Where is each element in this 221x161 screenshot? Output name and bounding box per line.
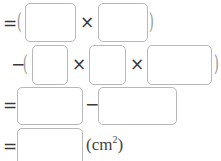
- answer-box-5[interactable]: [147, 45, 212, 85]
- answer-box-8[interactable]: [17, 128, 83, 161]
- close-paren: ): [214, 53, 219, 75]
- answer-box-4[interactable]: [89, 45, 126, 85]
- multiply-sign: ×: [130, 56, 144, 73]
- equals-sign: =: [3, 97, 17, 114]
- answer-box-1[interactable]: [25, 3, 76, 42]
- unit-label: (cm2): [86, 134, 123, 155]
- equals-sign: =: [3, 138, 17, 155]
- answer-box-6[interactable]: [17, 87, 83, 125]
- equals-sign: =: [3, 15, 17, 32]
- answer-box-7[interactable]: [98, 87, 177, 125]
- answer-box-2[interactable]: [98, 3, 148, 42]
- multiply-sign: ×: [80, 14, 94, 31]
- multiply-sign: ×: [72, 56, 86, 73]
- open-paren: (: [23, 53, 28, 75]
- open-paren: (: [17, 11, 22, 33]
- answer-box-3[interactable]: [32, 45, 68, 85]
- close-paren: ): [149, 11, 154, 33]
